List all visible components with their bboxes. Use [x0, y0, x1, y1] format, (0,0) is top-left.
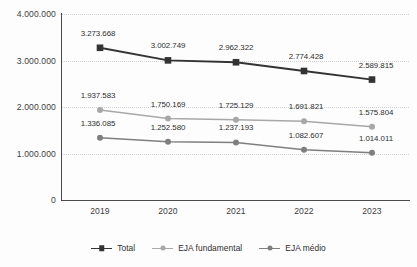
- legend-item-total[interactable]: Total: [91, 243, 135, 253]
- series-marker: [369, 150, 375, 156]
- data-label: 2.589.815: [359, 60, 394, 69]
- data-label: 2.774.428: [289, 51, 324, 60]
- data-label: 3.002.749: [151, 41, 186, 50]
- legend-item-eja-fundamental[interactable]: EJA fundamental: [152, 243, 242, 253]
- legend-label: EJA fundamental: [178, 243, 242, 253]
- series-marker: [165, 139, 171, 145]
- data-label: 1.252.580: [151, 122, 186, 131]
- series-marker: [301, 68, 308, 75]
- legend-marker-icon: [259, 244, 280, 253]
- series-marker: [97, 107, 103, 113]
- series-plot: [0, 0, 417, 267]
- legend-marker-icon: [152, 244, 173, 253]
- series-marker: [165, 57, 172, 64]
- series-marker: [301, 118, 307, 124]
- data-label: 1.336.085: [81, 118, 116, 127]
- legend-item-eja-médio[interactable]: EJA médio: [259, 243, 325, 253]
- data-label: 1.937.583: [81, 90, 116, 99]
- data-label: 1.575.804: [359, 107, 394, 116]
- data-label: 1.014.011: [359, 133, 393, 142]
- series-marker: [233, 59, 240, 66]
- series-marker: [97, 135, 103, 141]
- data-label: 1.725.129: [219, 100, 254, 109]
- series-marker: [369, 76, 376, 83]
- data-label: 3.273.668: [81, 28, 116, 37]
- series-marker: [97, 44, 104, 51]
- data-label: 1.237.193: [219, 123, 254, 132]
- series-marker: [301, 147, 307, 153]
- data-label: 1.750.169: [151, 99, 186, 108]
- data-label: 1.082.607: [289, 130, 324, 139]
- legend-marker-icon: [91, 244, 112, 253]
- chart-legend: TotalEJA fundamentalEJA médio: [0, 243, 417, 253]
- series-marker: [233, 139, 239, 145]
- series-marker: [233, 117, 239, 123]
- series-marker: [369, 124, 375, 130]
- legend-label: EJA médio: [285, 243, 325, 253]
- legend-label: Total: [117, 243, 135, 253]
- data-label: 2.962.322: [219, 43, 254, 52]
- series-marker: [165, 116, 171, 122]
- data-label: 1.691.821: [289, 102, 324, 111]
- series-eja-médio: [97, 135, 375, 156]
- line-chart: 01.000.0002.000.0003.000.0004.000.000 20…: [0, 0, 417, 267]
